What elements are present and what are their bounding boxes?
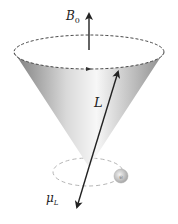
- l-label: L: [93, 95, 103, 110]
- mu-l-label: μL: [46, 191, 59, 207]
- precession-diagram: B0 L μL e: [0, 0, 178, 224]
- mu-l-arrow: [77, 167, 89, 207]
- electron-label: e: [119, 173, 123, 180]
- b0-label: B0: [65, 9, 80, 25]
